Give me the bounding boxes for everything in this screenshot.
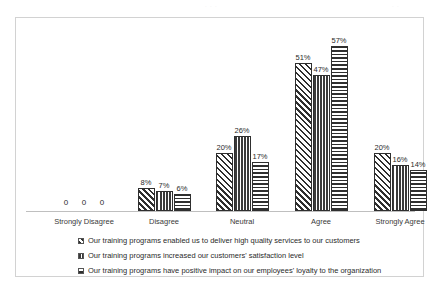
bar-group-disagree: 8%7%6% <box>136 17 192 211</box>
bar-3-1[interactable]: 47% <box>313 17 330 211</box>
scan-artifact-left: · · · <box>205 3 218 9</box>
bar-0-2[interactable]: 0 <box>94 17 111 211</box>
bar-2-1[interactable]: 26% <box>234 17 251 211</box>
bar-0-0[interactable]: 0 <box>58 17 75 211</box>
bar-rect <box>174 194 191 211</box>
category-axis-line <box>26 211 415 212</box>
bar-value-label: 0 <box>100 199 104 207</box>
bar-group-agree: 51%47%57% <box>293 17 349 211</box>
bar-value-label: 57% <box>331 37 346 45</box>
bar-value-label: 20% <box>374 144 389 152</box>
bar-rect <box>156 191 173 211</box>
legend-item-0[interactable]: Our training programs enabled us to deli… <box>16 233 423 248</box>
legend-item-2[interactable]: Our training programs have positive impa… <box>16 263 423 278</box>
bar-value-label: 47% <box>313 66 328 74</box>
legend-swatch-diagonal-hatch-icon <box>78 238 84 244</box>
legend-swatch-horizontal-stripes-icon <box>78 268 84 274</box>
legend-label-2: Our training programs have positive impa… <box>88 266 381 275</box>
bar-value-label: 16% <box>392 156 407 164</box>
bar-0-1[interactable]: 0 <box>76 17 93 211</box>
bar-value-label: 7% <box>159 182 170 190</box>
legend-swatch-vertical-stripes-icon <box>78 253 84 259</box>
bar-rect <box>252 162 269 211</box>
bar-value-label: 8% <box>141 179 152 187</box>
bar-2-0[interactable]: 20% <box>216 17 233 211</box>
bar-value-label: 0 <box>64 199 68 207</box>
chart-legend: Our training programs enabled us to deli… <box>16 233 423 278</box>
bar-rect <box>295 63 312 211</box>
category-label-4: Strongly Agree <box>345 217 445 226</box>
bar-rect <box>392 165 409 211</box>
bar-value-label: 6% <box>177 185 188 193</box>
bar-1-2[interactable]: 6% <box>174 17 191 211</box>
plot-area: 0008%7%6%20%26%17%51%47%57%20%16%14% <box>16 18 423 212</box>
bar-group-strongly-agree: 20%16%14% <box>372 17 428 211</box>
bar-value-label: 0 <box>82 199 86 207</box>
bar-3-2[interactable]: 57% <box>331 17 348 211</box>
bar-4-0[interactable]: 20% <box>374 17 391 211</box>
bar-rect <box>234 136 251 211</box>
bar-group-neutral: 20%26%17% <box>214 17 270 211</box>
bar-rect <box>410 170 427 211</box>
bar-rect <box>331 46 348 211</box>
bar-rect <box>374 153 391 211</box>
bar-value-label: 14% <box>410 161 425 169</box>
bar-1-1[interactable]: 7% <box>156 17 173 211</box>
bar-value-label: 26% <box>234 127 249 135</box>
bar-3-0[interactable]: 51% <box>295 17 312 211</box>
bar-group-strongly-disagree: 000 <box>56 17 112 211</box>
chart-frame: 0008%7%6%20%26%17%51%47%57%20%16%14% Str… <box>15 17 424 277</box>
legend-item-1[interactable]: Our training programs increased our cust… <box>16 248 423 263</box>
bar-value-label: 17% <box>252 153 267 161</box>
bar-value-label: 20% <box>216 144 231 152</box>
bar-rect <box>313 75 330 211</box>
bar-value-label: 51% <box>295 54 310 62</box>
legend-label-1: Our training programs increased our cust… <box>88 251 304 260</box>
bar-4-2[interactable]: 14% <box>410 17 427 211</box>
legend-label-0: Our training programs enabled us to deli… <box>88 236 360 245</box>
bar-rect <box>138 188 155 211</box>
bar-1-0[interactable]: 8% <box>138 17 155 211</box>
bar-rect <box>216 153 233 211</box>
bar-4-1[interactable]: 16% <box>392 17 409 211</box>
scan-artifact-right: · · <box>392 3 400 9</box>
category-axis-labels: Strongly DisagreeDisagreeNeutralAgreeStr… <box>16 214 423 230</box>
bar-2-2[interactable]: 17% <box>252 17 269 211</box>
